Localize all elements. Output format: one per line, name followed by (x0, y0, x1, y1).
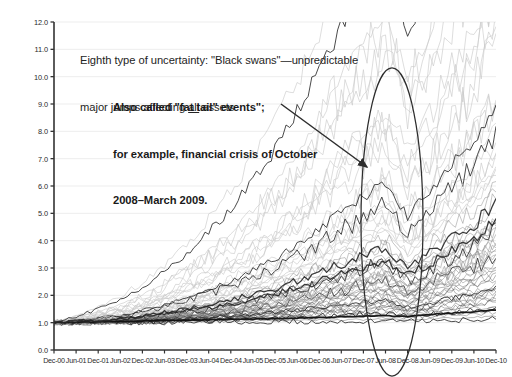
y-tick-label: 0.0 (18, 346, 48, 355)
fat-tail-line-3: 2008–March 2009. (113, 193, 317, 209)
y-tick-label: 2.0 (18, 291, 48, 300)
fat-tail-line-1: Also called "fat tail" events"; (113, 100, 317, 116)
y-tick-label: 9.0 (18, 100, 48, 109)
x-axis-ticks (54, 350, 496, 354)
y-tick-label: 8.0 (18, 127, 48, 136)
y-tick-label: 6.0 (18, 182, 48, 191)
y-tick-label: 3.0 (18, 264, 48, 273)
y-tick-label: 1.0 (18, 319, 48, 328)
y-tick-label: 10.0 (18, 73, 48, 82)
fat-tail-line-2: for example, financial crisis of October (113, 147, 317, 163)
x-tick-label: Dec-10 (479, 356, 512, 365)
y-tick-label: 11.0 (18, 45, 48, 54)
black-swans-line-1: Eighth type of uncertainty: "Black swans… (80, 53, 358, 69)
y-tick-label: 12.0 (18, 18, 48, 27)
y-tick-label: 4.0 (18, 237, 48, 246)
annotation-fat-tail: Also called "fat tail" events"; for exam… (113, 69, 317, 240)
y-tick-label: 5.0 (18, 209, 48, 218)
y-tick-label: 7.0 (18, 155, 48, 164)
